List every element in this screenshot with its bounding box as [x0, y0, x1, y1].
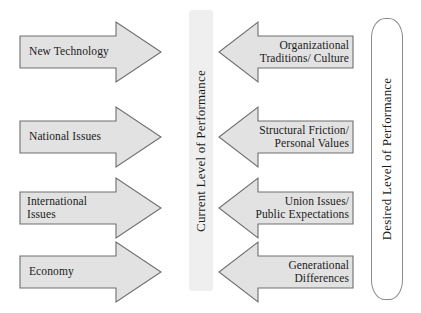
restraining-force-arrow-3: Union Issues/ Public Expectations [218, 176, 354, 240]
desired-level-label: Desired Level of Performance [379, 78, 395, 241]
driving-force-arrow-1: New Technology [20, 20, 162, 84]
current-level-bar: Current Level of Performance [189, 10, 213, 291]
desired-level-bar: Desired Level of Performance [371, 18, 403, 300]
driving-force-label-3: International Issues [27, 192, 117, 224]
restraining-force-arrow-1: Organizational Traditions/ Culture [218, 20, 354, 84]
restraining-force-arrow-2: Structural Friction/ Personal Values [218, 105, 354, 169]
driving-force-label-4: Economy [29, 256, 115, 288]
driving-force-label-2: National Issues [29, 121, 115, 153]
driving-force-arrow-3: International Issues [20, 176, 162, 240]
force-field-diagram: New Technology National Issues Internati… [0, 0, 421, 313]
restraining-force-label-2: Structural Friction/ Personal Values [257, 121, 349, 153]
driving-force-arrow-4: Economy [20, 240, 162, 304]
restraining-force-label-1: Organizational Traditions/ Culture [259, 36, 349, 68]
restraining-force-label-3: Union Issues/ Public Expectations [255, 192, 349, 224]
restraining-force-label-4: Generational Differences [259, 256, 349, 288]
driving-force-label-1: New Technology [29, 36, 115, 68]
restraining-force-arrow-4: Generational Differences [218, 240, 354, 304]
driving-force-arrow-2: National Issues [20, 105, 162, 169]
current-level-label: Current Level of Performance [193, 70, 209, 232]
